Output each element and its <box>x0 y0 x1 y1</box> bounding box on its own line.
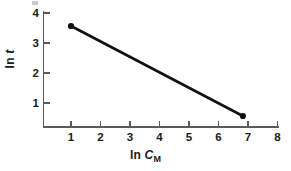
x-axis-ticks <box>71 121 278 128</box>
x-tick-label-8: 8 <box>274 131 281 143</box>
y-tick-label-1: 1 <box>33 97 40 109</box>
y-axis-title-symbol: t <box>3 50 17 54</box>
x-axis-title-prefix: ln <box>130 148 145 162</box>
x-tick-label-7: 7 <box>245 131 251 143</box>
y-tick-label-3: 3 <box>33 37 39 49</box>
x-tick-label-6: 6 <box>215 131 221 143</box>
y-tick-label-4: 4 <box>33 7 40 19</box>
y-axis-title: ln t <box>3 33 17 85</box>
x-axis-title: ln CM <box>0 148 291 164</box>
y-axis-tick-labels: 4 3 2 1 <box>33 7 40 109</box>
x-tick-label-4: 4 <box>156 131 163 143</box>
x-axis-title-subscript: M <box>153 154 161 164</box>
line-chart-plot: 4 3 2 1 1 2 3 4 5 6 7 8 <box>0 0 291 171</box>
x-tick-label-3: 3 <box>127 131 133 143</box>
chart-figure: 4 3 2 1 1 2 3 4 5 6 7 8 <box>0 0 291 171</box>
x-tick-label-1: 1 <box>68 131 75 143</box>
x-tick-label-2: 2 <box>97 131 103 143</box>
data-point-marker-1 <box>68 23 74 29</box>
data-point-marker-2 <box>240 113 246 119</box>
series-line <box>71 26 243 116</box>
data-series-ln-t <box>68 23 246 119</box>
x-tick-label-5: 5 <box>186 131 193 143</box>
y-axis-ticks <box>44 13 51 103</box>
y-tick-label-2: 2 <box>33 67 39 79</box>
x-axis-tick-labels: 1 2 3 4 5 6 7 8 <box>68 131 282 143</box>
y-axis-title-prefix: ln <box>3 54 17 69</box>
